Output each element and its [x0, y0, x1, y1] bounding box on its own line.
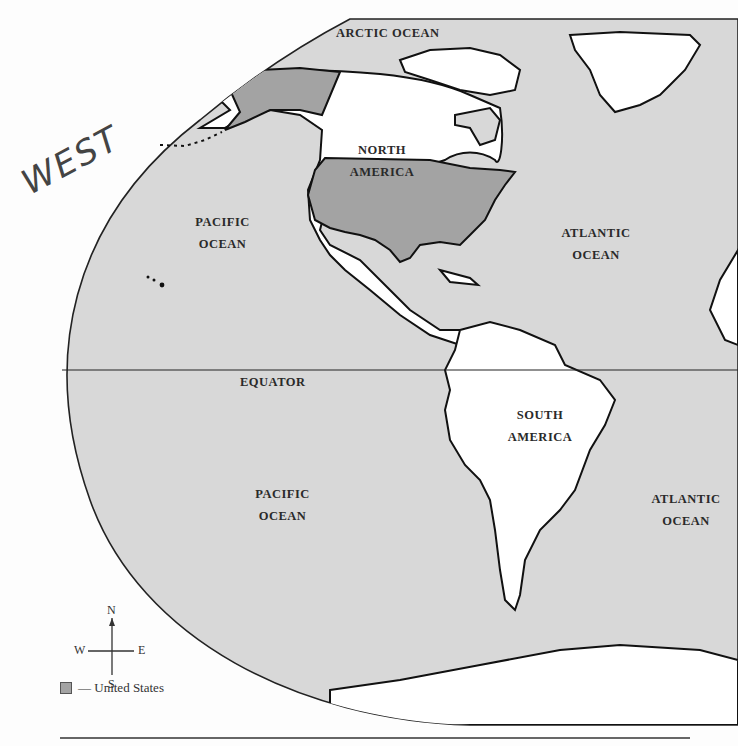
compass-w: W — [74, 643, 85, 658]
label-atlantic-ocean-north: ATLANTICOCEAN — [556, 222, 636, 266]
label-north-america: NORTHAMERICA — [347, 139, 417, 183]
compass-e: E — [138, 643, 145, 658]
label-south-america: SOUTHAMERICA — [500, 404, 580, 448]
legend: — United States — [60, 680, 164, 696]
compass-n: N — [107, 603, 116, 618]
compass-rose — [88, 618, 134, 675]
label-pacific-ocean-south: PACIFICOCEAN — [245, 483, 320, 527]
legend-swatch-united-states — [60, 682, 72, 694]
map-canvas — [0, 0, 738, 746]
label-atlantic-ocean-south: ATLANTICOCEAN — [646, 488, 726, 532]
label-pacific-ocean-north: PACIFICOCEAN — [185, 211, 260, 255]
label-equator: EQUATOR — [240, 371, 306, 393]
label-arctic-ocean: ARCTIC OCEAN — [336, 22, 440, 44]
legend-label: — United States — [78, 680, 164, 696]
